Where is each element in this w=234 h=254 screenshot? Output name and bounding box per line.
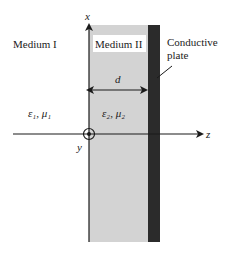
thickness-label: d (115, 73, 121, 85)
medium-1-params: ε₁, μ₁ (28, 107, 51, 119)
medium-1-label: Medium I (13, 38, 57, 50)
plate-label-line2: plate (167, 49, 188, 61)
y-axis-dot-icon (87, 132, 91, 136)
x-axis-label: x (84, 10, 90, 22)
medium-2-params: ε₂, μ₂ (102, 107, 125, 119)
medium-2-label: Medium II (95, 38, 143, 50)
z-axis-label: z (205, 128, 211, 140)
plate-label-line1: Conductive (167, 36, 218, 48)
y-axis-label: y (76, 141, 82, 153)
diagram-canvas: x z y Medium I ε₁, μ₁ Medium II ε₂, μ₂ d… (0, 0, 234, 254)
